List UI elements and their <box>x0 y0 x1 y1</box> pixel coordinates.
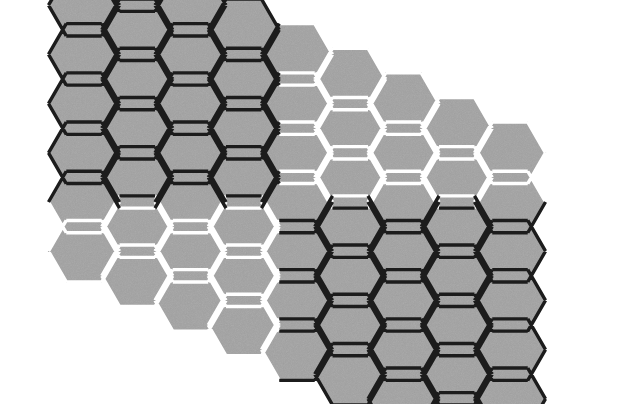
figure-root <box>0 0 632 404</box>
hexagon-tiling-canvas <box>0 0 632 404</box>
